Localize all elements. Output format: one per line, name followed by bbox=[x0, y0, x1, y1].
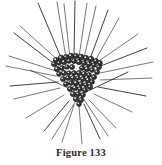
skeleton-bead-highlight bbox=[77, 71, 79, 73]
skeleton-bead bbox=[92, 63, 97, 68]
skeleton-bead bbox=[76, 92, 81, 97]
skeleton-bead bbox=[64, 82, 69, 87]
skeleton-bead bbox=[73, 80, 78, 85]
skeleton-bead bbox=[73, 96, 78, 101]
skeleton-bead bbox=[69, 81, 74, 86]
skeleton-bead bbox=[97, 65, 102, 70]
skeleton-bead-highlight bbox=[82, 61, 84, 63]
skeleton-bead-highlight bbox=[78, 87, 80, 89]
skeleton-bead-highlight bbox=[92, 63, 94, 65]
figure-plate: Figure 133 bbox=[0, 0, 162, 165]
skeleton-bead bbox=[67, 71, 72, 76]
skeleton-bead-highlight bbox=[61, 77, 63, 79]
skeleton-bead bbox=[68, 53, 73, 58]
skeleton-bead-highlight bbox=[86, 78, 88, 80]
skeleton-bead bbox=[88, 85, 93, 90]
skeleton-bead-highlight bbox=[94, 59, 96, 61]
skeleton-bead-highlight bbox=[57, 72, 59, 74]
skeleton-bead-highlight bbox=[90, 80, 92, 82]
skeleton-bead-highlight bbox=[69, 54, 71, 56]
skeleton-bead bbox=[88, 56, 93, 61]
skeleton-bead-highlight bbox=[64, 82, 66, 84]
skeleton-bead bbox=[79, 82, 84, 87]
skeleton-bead bbox=[72, 85, 77, 90]
skeleton-bead-highlight bbox=[81, 77, 83, 79]
skeleton-bead bbox=[76, 59, 81, 64]
skeleton-bead bbox=[84, 66, 89, 71]
skeleton-bead-highlight bbox=[72, 71, 74, 73]
skeleton-bead bbox=[72, 59, 77, 64]
skeleton-bead-highlight bbox=[77, 102, 79, 104]
skeleton-bead-highlight bbox=[71, 92, 73, 94]
figure-caption: Figure 133 bbox=[0, 147, 162, 158]
skeleton-bead-highlight bbox=[89, 57, 91, 59]
skeleton-bead bbox=[54, 66, 59, 71]
skeleton-bead-highlight bbox=[71, 76, 73, 78]
skeleton-bead bbox=[66, 76, 71, 81]
radiolarian-illustration bbox=[0, 0, 162, 146]
skeleton-bead-highlight bbox=[74, 54, 76, 56]
skeleton-bead-highlight bbox=[66, 66, 68, 68]
skeleton-bead-highlight bbox=[62, 60, 64, 62]
skeleton-bead bbox=[95, 70, 100, 75]
skeleton-bead bbox=[90, 80, 95, 85]
skeleton-bead-highlight bbox=[79, 82, 81, 84]
skeleton-bead-highlight bbox=[73, 86, 75, 88]
skeleton-bead bbox=[80, 66, 85, 71]
skeleton-bead bbox=[65, 65, 70, 70]
skeleton-bead bbox=[81, 71, 86, 76]
skeleton-bead bbox=[77, 102, 82, 107]
skeleton-bead-highlight bbox=[69, 81, 71, 83]
skeleton-bead-highlight bbox=[55, 67, 57, 69]
skeleton-bead bbox=[74, 54, 79, 59]
skeleton-bead bbox=[70, 91, 75, 96]
skeleton-bead-highlight bbox=[82, 72, 84, 74]
skeleton-bead-highlight bbox=[84, 56, 86, 58]
skeleton-bead-highlight bbox=[70, 65, 72, 67]
skeleton-bead bbox=[57, 72, 62, 77]
skeleton-bead bbox=[92, 75, 97, 80]
skeleton-bead bbox=[83, 88, 88, 93]
skeleton-bead-highlight bbox=[76, 92, 78, 94]
skeleton-bead-highlight bbox=[79, 55, 81, 57]
skeleton-bead-highlight bbox=[95, 70, 97, 72]
skeleton-bead-highlight bbox=[85, 67, 87, 69]
skeleton-bead-highlight bbox=[58, 62, 60, 64]
skeleton-bead bbox=[68, 87, 73, 92]
skeleton-bead bbox=[90, 68, 95, 73]
skeleton-bead-highlight bbox=[72, 59, 74, 61]
skeleton-bead bbox=[61, 59, 66, 64]
skeleton-bead-highlight bbox=[67, 59, 69, 61]
skeleton-bead bbox=[52, 62, 57, 67]
skeleton-bead-highlight bbox=[74, 97, 76, 99]
skeleton-bead-highlight bbox=[97, 65, 99, 67]
skeleton-bead bbox=[67, 59, 72, 64]
skeleton-bead-highlight bbox=[64, 55, 66, 57]
skeleton-bead bbox=[60, 66, 65, 71]
skeleton-bead-highlight bbox=[77, 77, 79, 79]
skeleton-bead bbox=[87, 73, 92, 78]
skeleton-bead bbox=[61, 77, 66, 82]
skeleton-bead-highlight bbox=[66, 76, 68, 78]
skeleton-bead-highlight bbox=[77, 60, 79, 62]
skeleton-bead bbox=[86, 61, 91, 66]
skeleton-bead-highlight bbox=[60, 66, 62, 68]
skeleton-bead bbox=[83, 55, 88, 60]
skeleton-bead bbox=[57, 61, 62, 66]
skeleton-bead bbox=[70, 65, 75, 70]
skeleton-bead-highlight bbox=[92, 75, 94, 77]
skeleton-bead-highlight bbox=[87, 73, 89, 75]
skeleton-bead-highlight bbox=[52, 62, 54, 64]
skeleton-bead-highlight bbox=[54, 58, 56, 60]
skeleton-bead-highlight bbox=[84, 83, 86, 85]
skeleton-bead bbox=[78, 87, 83, 92]
skeleton-bead bbox=[72, 71, 77, 76]
skeleton-bead-highlight bbox=[83, 88, 85, 90]
skeleton-bead bbox=[76, 76, 81, 81]
skeleton-bead-highlight bbox=[68, 87, 70, 89]
skeleton-bead-highlight bbox=[74, 81, 76, 83]
skeleton-bead bbox=[70, 75, 75, 80]
skeleton-bead bbox=[61, 70, 66, 75]
skeleton-bead-highlight bbox=[68, 72, 70, 74]
skeleton-bead-highlight bbox=[80, 66, 82, 68]
